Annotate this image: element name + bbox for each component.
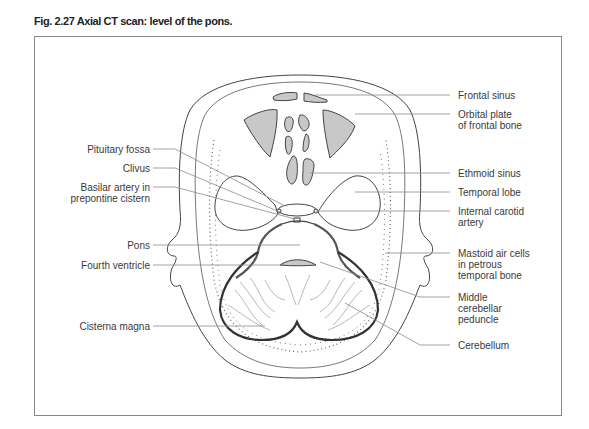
label-basilar-artery: Basilar artery in prepontine cistern: [71, 182, 151, 204]
orbital-plate-left: [244, 109, 277, 157]
label-clivus: Clivus: [123, 163, 150, 174]
fourth-ventricle: [280, 260, 316, 266]
frontal-sinus-left: [273, 92, 297, 100]
pituitary-fossa: [278, 204, 316, 216]
temporal-lobe-right: [318, 176, 380, 230]
ethmoid-cells: [285, 115, 314, 185]
frontal-sinus-right: [304, 93, 327, 102]
label-internal-carotid: Internal carotid artery: [458, 206, 524, 228]
diploe-dots: [210, 140, 391, 352]
temporal-lobe-left: [215, 176, 278, 230]
label-middle-cerebellar-peduncle: Middle cerebellar peduncle: [458, 292, 502, 325]
label-ethmoid-sinus: Ethmoid sinus: [458, 168, 521, 179]
label-pituitary-fossa: Pituitary fossa: [87, 144, 150, 155]
label-cerebellum: Cerebellum: [458, 340, 509, 351]
orbital-plate-right: [323, 110, 355, 158]
label-fourth-ventricle: Fourth ventricle: [81, 260, 150, 271]
label-temporal-lobe: Temporal lobe: [458, 187, 521, 198]
cerebellar-folia: [228, 275, 370, 330]
label-frontal-sinus: Frontal sinus: [458, 90, 515, 101]
label-orbital-plate: Orbital plate of frontal bone: [458, 109, 522, 131]
petrous-ridge-left: [236, 224, 282, 278]
label-pons: Pons: [127, 240, 150, 251]
label-cisterna-magna: Cisterna magna: [79, 321, 150, 332]
label-mastoid-air-cells: Mastoid air cells in petrous temporal bo…: [458, 248, 530, 281]
petrous-ridge-right: [314, 224, 360, 278]
